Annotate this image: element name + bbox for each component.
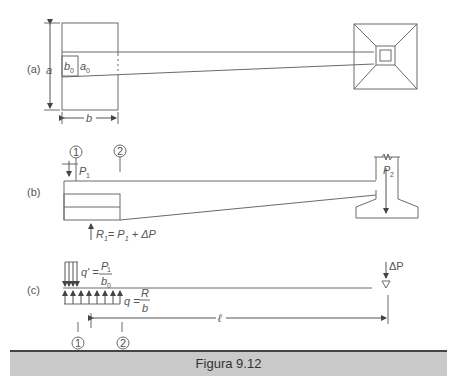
- panel-c-label: (c): [27, 284, 40, 296]
- strap-beam-bottom-edge: [62, 64, 374, 77]
- delta-p-label: ΔP: [389, 260, 404, 272]
- reaction-label: R1= P1 + ΔP: [96, 228, 157, 242]
- svg-text:1: 1: [107, 266, 111, 273]
- panel-c-load-diagram: (c) q' = P 1 b 0 q = R: [27, 260, 404, 349]
- svg-text:0: 0: [70, 67, 74, 74]
- panel-b-label: (b): [27, 186, 40, 198]
- dimension-a-label: a: [46, 64, 52, 76]
- load-q-prime-arrows: [65, 262, 78, 286]
- caption-bar: Figura 9.12: [10, 350, 447, 376]
- panel-a-plan-view: (a) a b 0 a 0 b: [27, 23, 417, 124]
- panel-a-label: (a): [27, 63, 40, 75]
- beam-bottom: [120, 195, 376, 220]
- panel-b-elevation: (b) 1 2 P 1 R1= P1 + ΔP P: [27, 145, 418, 242]
- figure-9-12-diagram: (a) a b 0 a 0 b: [0, 0, 457, 385]
- q-prime-label: q' =: [81, 266, 99, 278]
- span-label: ℓ: [217, 312, 222, 324]
- interior-footing-plan: [354, 24, 417, 89]
- figure-caption: Figura 9.12: [10, 356, 447, 371]
- q-label: q =: [124, 295, 140, 307]
- svg-text:2: 2: [390, 171, 394, 178]
- support-icon: [382, 281, 390, 288]
- svg-text:1: 1: [86, 172, 90, 179]
- dimension-b-label: b: [86, 112, 92, 124]
- svg-text:0: 0: [86, 67, 90, 74]
- svg-text:1: 1: [73, 146, 79, 158]
- svg-text:R: R: [141, 287, 149, 299]
- svg-text:2: 2: [117, 145, 123, 157]
- svg-text:b: b: [142, 302, 148, 314]
- svg-text:2: 2: [120, 337, 126, 349]
- load-q-arrows: [64, 291, 120, 304]
- svg-text:1: 1: [75, 337, 81, 349]
